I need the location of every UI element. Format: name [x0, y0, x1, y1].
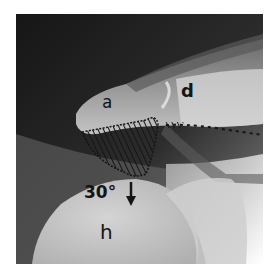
xray-image [16, 14, 263, 264]
label-clavicle: d [181, 82, 194, 100]
label-humeral-head: h [100, 222, 113, 242]
arrow-down-icon [126, 182, 136, 206]
label-angle: 30° [84, 184, 116, 201]
xray-drawing [16, 14, 263, 264]
label-acromion: a [102, 94, 112, 111]
